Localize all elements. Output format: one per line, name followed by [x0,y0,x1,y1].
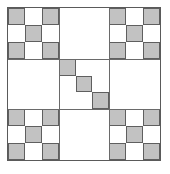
grid-cell-r9-c9 [143,143,160,160]
grid-cell-r2-c7 [109,25,126,42]
grid-cell-r2-c2 [25,25,42,42]
grid-cell-r8-c3 [42,126,59,143]
grid-cell-r3-c2 [25,42,42,59]
grid-cell-r3-c3 [42,42,59,59]
grid-cell-r7-c7 [109,109,126,126]
grid-cell-r2-c6 [92,25,109,42]
grid-cell-r8-c5 [76,126,93,143]
grid-cell-r2-c1 [8,25,25,42]
grid-cell-r1-c4 [59,8,76,25]
grid-cell-r6-c6 [92,92,109,109]
grid-cell-r9-c5 [76,143,93,160]
grid-cell-r7-c2 [25,109,42,126]
grid-cell-r4-c3 [42,59,59,76]
grid-cell-r3-c6 [92,42,109,59]
grid-cell-r6-c9 [143,92,160,109]
grid-cell-r8-c9 [143,126,160,143]
grid-cell-r5-c9 [143,76,160,93]
grid-cell-r7-c6 [92,109,109,126]
grid-rule-v1 [59,8,60,160]
grid-cell-r5-c2 [25,76,42,93]
grid-cell-r3-c4 [59,42,76,59]
grid-cell-r4-c2 [25,59,42,76]
grid-cell-r2-c4 [59,25,76,42]
grid-cell-r8-c4 [59,126,76,143]
grid-cell-r5-c3 [42,76,59,93]
grid-cell-r7-c9 [143,109,160,126]
grid-cell-r2-c9 [143,25,160,42]
grid-cell-r1-c6 [92,8,109,25]
grid-cell-r8-c6 [92,126,109,143]
grid-cell-r6-c1 [8,92,25,109]
grid-cell-r3-c1 [8,42,25,59]
grid-cell-r1-c5 [76,8,93,25]
grid-cell-r1-c3 [42,8,59,25]
grid-cell-r8-c2 [25,126,42,143]
grid-cell-r5-c8 [126,76,143,93]
grid-cell-r7-c3 [42,109,59,126]
grid-cell-r9-c2 [25,143,42,160]
grid-cell-r1-c2 [25,8,42,25]
grid-cell-r4-c5 [76,59,93,76]
grid-cell-r9-c6 [92,143,109,160]
grid-cell-r6-c2 [25,92,42,109]
grid-cell-r5-c6 [92,76,109,93]
grid-cell-r9-c1 [8,143,25,160]
grid-cell-r5-c7 [109,76,126,93]
grid-cell-r3-c5 [76,42,93,59]
grid-cell-r8-c8 [126,126,143,143]
grid-cell-r4-c1 [8,59,25,76]
grid-cell-r1-c8 [126,8,143,25]
fractal-carpet-figure [7,7,161,161]
grid-rule-h1 [8,59,160,60]
grid-cell-r9-c7 [109,143,126,160]
figure-container [0,0,170,174]
grid-cell-r2-c8 [126,25,143,42]
grid-cell-r5-c5 [76,76,93,93]
grid-cell-r6-c3 [42,92,59,109]
grid-cell-r9-c8 [126,143,143,160]
grid-cell-r5-c1 [8,76,25,93]
grid-cell-r6-c7 [109,92,126,109]
grid-cell-r2-c3 [42,25,59,42]
grid-cell-r4-c7 [109,59,126,76]
grid-cell-r8-c7 [109,126,126,143]
grid-cell-r4-c9 [143,59,160,76]
grid-cell-r6-c8 [126,92,143,109]
grid-cell-r5-c4 [59,76,76,93]
grid-cell-r1-c9 [143,8,160,25]
grid-cell-r6-c5 [76,92,93,109]
grid-cell-r4-c8 [126,59,143,76]
grid-cell-r4-c6 [92,59,109,76]
grid-cell-r3-c9 [143,42,160,59]
grid-cell-r7-c4 [59,109,76,126]
grid-rule-v2 [109,8,110,160]
grid-cell-r2-c5 [76,25,93,42]
grid-cell-r9-c4 [59,143,76,160]
grid-cell-r7-c5 [76,109,93,126]
grid-cell-r9-c3 [42,143,59,160]
grid-cell-r3-c8 [126,42,143,59]
grid-cell-r7-c8 [126,109,143,126]
grid-cell-r8-c1 [8,126,25,143]
grid-cell-r3-c7 [109,42,126,59]
grid-rule-h2 [8,109,160,110]
grid-cell-r6-c4 [59,92,76,109]
grid-cell-r1-c1 [8,8,25,25]
fractal-grid [8,8,160,160]
grid-cell-r4-c4 [59,59,76,76]
grid-cell-r7-c1 [8,109,25,126]
grid-cell-r1-c7 [109,8,126,25]
